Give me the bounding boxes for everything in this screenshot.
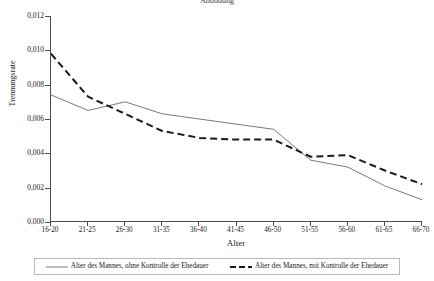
legend-entry-1[interactable]: Alter des Mannes, mit Kontrolle der Ehed… [230,262,388,271]
x-tick-mark [161,222,162,226]
x-tick-mark [87,222,88,226]
y-tick-label: 0,000 [27,218,44,226]
x-tick-label: 61-65 [376,226,393,235]
x-tick-label: 16-20 [42,226,59,235]
chart-figure: Abbildung 0,0000,0020,0040,0060,0080,010… [0,0,434,281]
x-tick-label: 36-40 [190,226,207,235]
series-line-0 [51,95,422,200]
x-tick-mark [198,222,199,226]
x-tick-mark [50,222,51,226]
x-tick-mark [124,222,125,226]
legend-label: Alter des Mannes, mit Kontrolle der Ehed… [255,262,388,271]
x-tick-mark [384,222,385,226]
y-tick-label: 0,006 [27,115,44,123]
chart-legend: Alter des Mannes, ohne Kontrolle der Ehe… [34,258,400,275]
y-tick-label: 0,012 [27,12,44,20]
series-lines [51,16,423,222]
y-tick-label: 0,008 [27,81,44,89]
x-tick-mark [421,222,422,226]
x-tick-label: 41-45 [227,226,244,235]
legend-swatch-dashed-icon [230,263,252,271]
x-tick-mark [347,222,348,226]
x-tick-label: 56-60 [338,226,355,235]
x-tick-mark [236,222,237,226]
x-tick-mark [273,222,274,226]
clipped-title-fragment: Abbildung [0,0,434,7]
y-tick-label: 0,010 [27,46,44,54]
x-tick-mark [310,222,311,226]
plot-area [50,16,422,222]
y-tick-label: 0,004 [27,149,44,157]
x-tick-label: 51-55 [301,226,318,235]
x-tick-label: 26-30 [116,226,133,235]
y-tick-label: 0,002 [27,184,44,192]
x-tick-label: 46-50 [264,226,281,235]
y-axis-title: Trennungsrate [8,34,17,134]
legend-entry-0[interactable]: Alter des Mannes, ohne Kontrolle der Ehe… [46,262,209,271]
x-axis-title: Alter [50,238,422,249]
x-tick-label: 21-25 [79,226,96,235]
x-tick-label: 31-35 [153,226,170,235]
legend-swatch-solid-icon [46,263,68,271]
series-line-1 [51,54,422,184]
title-fragment-text: Abbildung [200,0,234,5]
x-tick-label: 66-70 [413,226,430,235]
legend-label: Alter des Mannes, ohne Kontrolle der Ehe… [71,262,209,271]
